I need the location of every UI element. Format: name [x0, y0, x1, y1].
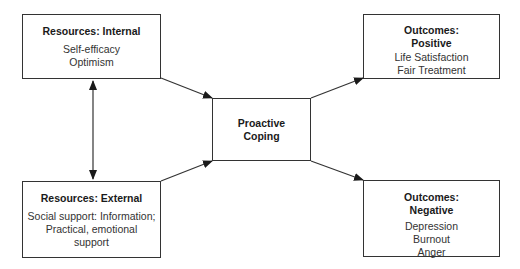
node-title-line: Proactive [238, 117, 285, 130]
node-item: Life Satisfaction [394, 51, 468, 64]
node-item: Depression [405, 220, 458, 233]
node-outcomes-positive: Outcomes: Positive Life Satisfaction Fai… [363, 14, 500, 79]
node-title-line: Outcomes: [404, 191, 459, 204]
node-title-line: Outcomes: [404, 24, 459, 37]
node-item: Self-efficacy [63, 43, 120, 56]
edge-external-proactive [161, 161, 212, 181]
node-item: Optimism [63, 56, 120, 69]
edge-proactive-positive [311, 78, 363, 98]
node-item: Practical, emotional [28, 223, 156, 236]
node-items: Depression Burnout Anger [405, 220, 458, 259]
node-item: Fair Treatment [394, 64, 468, 77]
edge-internal-proactive [161, 78, 212, 98]
edge-proactive-negative [311, 161, 363, 180]
node-item: Anger [405, 246, 458, 259]
node-item: Social support: Information; [28, 210, 156, 223]
node-items: Life Satisfaction Fair Treatment [394, 51, 468, 77]
node-resources-internal: Resources: Internal Self-efficacy Optimi… [22, 14, 161, 79]
node-item: Burnout [405, 233, 458, 246]
node-title-line: Negative [410, 204, 454, 217]
node-outcomes-negative: Outcomes: Negative Depression Burnout An… [363, 180, 500, 257]
node-title-line: Positive [411, 37, 451, 50]
node-proactive-coping: Proactive Coping [212, 98, 311, 161]
node-title: Resources: Internal [42, 25, 140, 38]
node-items: Social support: Information; Practical, … [28, 210, 156, 249]
node-items: Self-efficacy Optimism [63, 43, 120, 69]
node-title-line: Coping [243, 130, 279, 143]
node-item: support [28, 236, 156, 249]
node-resources-external: Resources: External Social support: Info… [22, 181, 161, 258]
node-title: Resources: External [41, 192, 143, 205]
